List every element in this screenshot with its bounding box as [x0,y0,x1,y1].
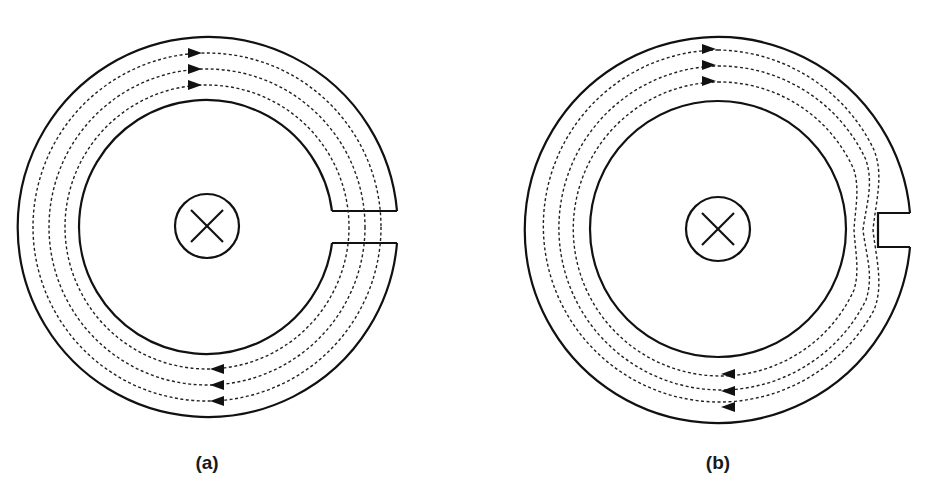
flux-line-outer [543,50,879,402]
flux-line-middle [559,66,870,390]
flux-arrow-left-icon [210,364,224,374]
flux-arrow-right-icon [188,48,202,58]
flux-arrow-left-icon [721,386,735,396]
flux-arrow-right-icon [702,44,716,54]
panel-b-label: (b) [706,452,730,474]
panel-a-diagram [18,37,397,417]
flux-arrow-left-icon [721,402,735,412]
flux-arrow-right-icon [702,60,716,70]
panel-b-diagram [525,37,910,423]
flux-line-inner [573,82,857,376]
figure-canvas [0,0,927,496]
flux-arrow-right-icon [188,80,202,90]
flux-arrow-left-icon [721,369,735,379]
panel-a-label: (a) [195,452,218,474]
flux-arrow-left-icon [210,396,224,406]
flux-arrow-left-icon [210,380,224,390]
flux-arrow-right-icon [702,76,716,86]
flux-arrow-right-icon [188,64,202,74]
core-notch [878,213,910,247]
